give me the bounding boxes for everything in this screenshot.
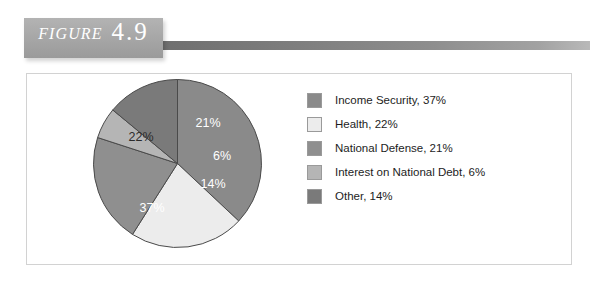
figure-number-label: 4.9 <box>112 18 149 46</box>
legend-color-swatch <box>307 141 322 156</box>
figure-header-rule <box>162 41 590 50</box>
chart-legend: Income Security, 37%Health, 22%National … <box>307 88 557 208</box>
legend-color-swatch <box>307 93 322 108</box>
legend-item: National Defense, 21% <box>307 136 557 160</box>
pie-slice-group <box>93 80 261 248</box>
legend-item-label: National Defense, 21% <box>335 142 453 154</box>
figure-word-label: Figure <box>38 25 102 43</box>
legend-color-swatch <box>307 117 322 132</box>
pie-chart-svg <box>93 79 262 248</box>
legend-item: Other, 14% <box>307 184 557 208</box>
legend-item-label: Interest on National Debt, 6% <box>335 166 485 178</box>
legend-item-label: Other, 14% <box>335 190 393 202</box>
figure-number-tab-content: Figure 4.9 <box>24 18 163 58</box>
figure-page: Figure 4.9 37%22%21%6%14% Income Securit… <box>0 0 593 281</box>
legend-item: Income Security, 37% <box>307 88 557 112</box>
figure-number-tab: Figure 4.9 <box>24 18 163 58</box>
legend-item: Health, 22% <box>307 112 557 136</box>
pie-chart <box>93 79 262 248</box>
legend-color-swatch <box>307 189 322 204</box>
legend-color-swatch <box>307 165 322 180</box>
legend-item-label: Health, 22% <box>335 118 398 130</box>
legend-item-label: Income Security, 37% <box>335 94 446 106</box>
legend-item: Interest on National Debt, 6% <box>307 160 557 184</box>
